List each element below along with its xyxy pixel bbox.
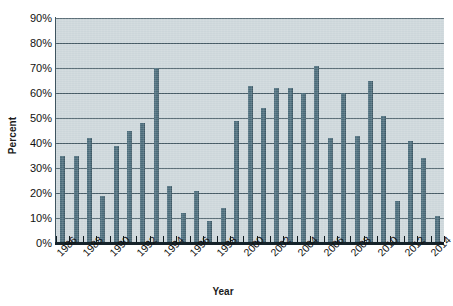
x-tickmark	[324, 236, 325, 242]
y-tick-label: 10%	[18, 213, 52, 224]
x-tickmark	[163, 236, 164, 242]
bar	[368, 81, 373, 244]
x-tickmark	[270, 236, 271, 242]
bar	[408, 141, 413, 244]
bar	[328, 138, 333, 243]
y-tick-label: 70%	[18, 63, 52, 74]
bar	[261, 108, 266, 243]
bar	[127, 131, 132, 244]
bar	[87, 138, 92, 243]
y-tick-label: 40%	[18, 138, 52, 149]
bar	[421, 158, 426, 243]
bar	[341, 93, 346, 243]
bar	[301, 93, 306, 243]
plot-area	[56, 18, 444, 243]
x-tickmark	[404, 236, 405, 242]
x-tickmark	[83, 236, 84, 242]
x-tickmark	[190, 236, 191, 242]
bar	[60, 156, 65, 244]
x-tickmark	[217, 236, 218, 242]
bar	[74, 156, 79, 244]
bar	[167, 186, 172, 244]
bar	[288, 88, 293, 243]
bar	[274, 88, 279, 243]
bar	[314, 66, 319, 244]
bar	[154, 68, 159, 243]
y-tick-label: 80%	[18, 38, 52, 49]
y-tick-label: 20%	[18, 188, 52, 199]
bar	[355, 136, 360, 244]
x-tickmark	[297, 236, 298, 242]
x-tickmark	[56, 236, 57, 242]
bar	[114, 146, 119, 244]
bar	[140, 123, 145, 243]
x-tickmark	[136, 236, 137, 242]
x-axis-title: Year	[0, 286, 446, 297]
x-tickmark	[377, 236, 378, 242]
x-tickmark	[243, 236, 244, 242]
y-tick-label: 30%	[18, 163, 52, 174]
gridline	[56, 43, 444, 44]
bar	[381, 116, 386, 244]
gridline	[56, 68, 444, 69]
gridline	[56, 18, 444, 19]
y-tick-label: 60%	[18, 88, 52, 99]
y-tick-label: 90%	[18, 13, 52, 24]
y-tick-label: 50%	[18, 113, 52, 124]
bar	[248, 86, 253, 244]
x-tickmark	[431, 236, 432, 242]
x-tickmark	[350, 236, 351, 242]
x-tickmark	[110, 236, 111, 242]
bar	[234, 121, 239, 244]
